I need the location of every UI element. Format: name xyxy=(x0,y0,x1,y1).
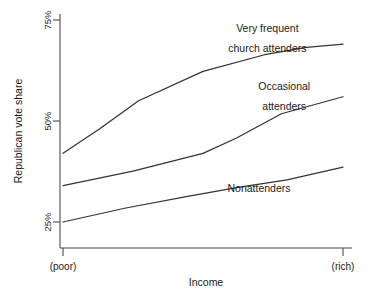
y-axis-ticks xyxy=(53,20,60,222)
annotation-label-0: Very frequent xyxy=(236,22,299,34)
republican-vote-share-line-chart: 25%50%75% Republican vote share (poor)(r… xyxy=(0,0,368,296)
y-axis-title: Republican vote share xyxy=(12,79,24,184)
x-axis-tick-labels: (poor)(rich) xyxy=(50,261,355,272)
y-tick-label-50%: 50% xyxy=(42,111,53,131)
annotation-label-4: Nonattenders xyxy=(227,182,290,194)
x-tick-label-0: (poor) xyxy=(50,261,77,272)
y-axis: 25%50%75% Republican vote share xyxy=(12,10,60,248)
x-axis-title: Income xyxy=(189,276,224,288)
series-lines xyxy=(63,44,343,222)
annotation-label-2: Occasional xyxy=(258,80,310,92)
x-axis: (poor)(rich) Income xyxy=(50,248,355,288)
y-tick-label-25%: 25% xyxy=(42,212,53,232)
y-axis-tick-labels: 25%50%75% xyxy=(42,10,53,232)
series-line-0 xyxy=(63,44,343,153)
x-axis-ticks xyxy=(63,248,343,256)
chart-container: 25%50%75% Republican vote share (poor)(r… xyxy=(0,0,368,296)
annotation-label-3: attenders xyxy=(262,100,306,112)
annotation-label-1: church attenders xyxy=(228,42,306,54)
y-tick-label-75%: 75% xyxy=(42,10,53,30)
x-tick-label-1: (rich) xyxy=(332,261,355,272)
series-line-2 xyxy=(63,167,343,222)
series-annotations: Very frequentchurch attendersOccasionala… xyxy=(227,22,310,194)
